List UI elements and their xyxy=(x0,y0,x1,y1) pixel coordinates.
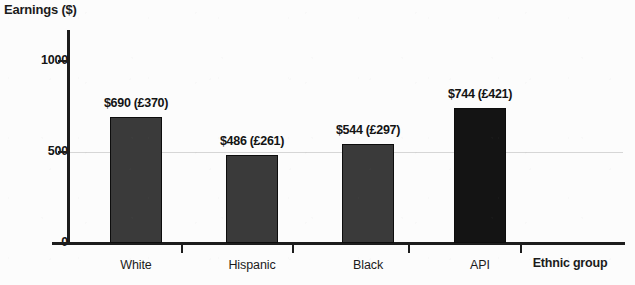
bar-value-label-black: $544 (£297) xyxy=(336,123,400,137)
bar-black[interactable] xyxy=(342,144,394,243)
x-category-label-api: API xyxy=(470,258,490,272)
y-tick-mark-500 xyxy=(58,151,68,153)
bar-white[interactable] xyxy=(110,117,162,243)
bar-value-label-hispanic: $486 (£261) xyxy=(220,134,284,148)
x-tick-mark-3 xyxy=(408,245,410,253)
x-tick-mark-4 xyxy=(520,245,522,253)
bar-api[interactable] xyxy=(454,108,506,243)
x-tick-mark-2 xyxy=(292,245,294,253)
x-axis-title: Ethnic group xyxy=(533,256,608,270)
bar-hispanic[interactable] xyxy=(226,155,278,243)
x-category-label-hispanic: Hispanic xyxy=(228,258,275,272)
bar-value-label-api: $744 (£421) xyxy=(448,87,512,101)
x-category-label-black: Black xyxy=(353,258,383,272)
y-axis-title: Earnings ($) xyxy=(4,2,77,17)
y-tick-mark-1000 xyxy=(58,60,68,62)
y-tick-mark-0 xyxy=(58,242,68,244)
bar-value-label-white: $690 (£370) xyxy=(104,96,168,110)
x-tick-mark-1 xyxy=(181,245,183,253)
bar-chart-figure: Earnings ($) 1000 500 0 $690 (£370) Whit… xyxy=(0,0,635,285)
x-category-label-white: White xyxy=(120,258,151,272)
